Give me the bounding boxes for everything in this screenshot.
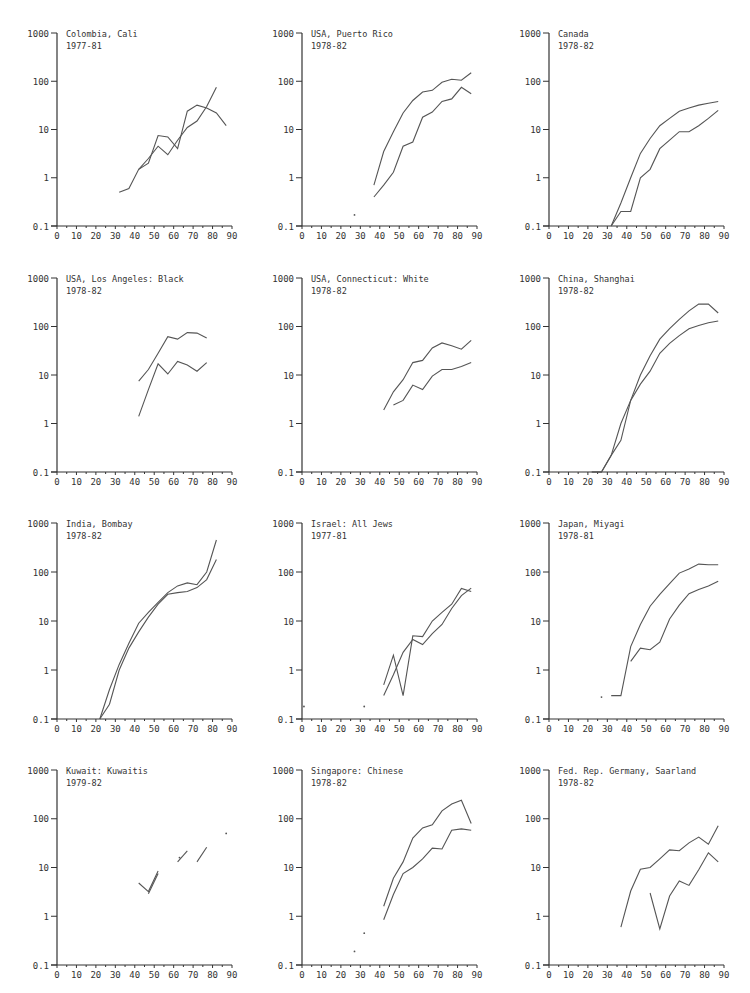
y-tick-label: 0.1 xyxy=(33,468,49,478)
x-tick-label: 90 xyxy=(227,231,238,241)
series-line-upper xyxy=(384,340,472,410)
x-tick-label: 80 xyxy=(207,970,218,980)
y-tick-label: 10 xyxy=(530,371,541,381)
chart-panel-8: 10001001010.10102030405060708090Japan, M… xyxy=(519,519,729,735)
y-tick-label: 100 xyxy=(33,814,49,824)
y-tick-label: 0.1 xyxy=(33,961,49,971)
x-tick-label: 10 xyxy=(316,477,327,487)
x-tick-label: 90 xyxy=(472,724,483,734)
chart-panel-3: 10001001010.10102030405060708090USA, Los… xyxy=(27,274,237,488)
chart-subtitle: 1977-81 xyxy=(66,41,102,51)
x-tick-label: 60 xyxy=(660,724,671,734)
y-tick-label: 0.1 xyxy=(525,715,541,725)
x-tick-label: 90 xyxy=(227,970,238,980)
y-tick-label: 0.1 xyxy=(33,715,49,725)
x-tick-label: 30 xyxy=(602,970,613,980)
chart-subtitle: 1977-81 xyxy=(311,531,347,541)
chart-subtitle: 1978-82 xyxy=(311,41,347,51)
x-tick-label: 90 xyxy=(719,477,730,487)
x-tick-label: 30 xyxy=(355,477,366,487)
x-tick-label: 30 xyxy=(602,231,613,241)
series-line-lower xyxy=(384,588,472,696)
x-tick-label: 90 xyxy=(227,724,238,734)
x-tick-label: 0 xyxy=(54,724,59,734)
chart-panel-10: 10001001010.10102030405060708090Singapor… xyxy=(272,766,482,981)
series-line-upper xyxy=(384,589,472,696)
x-tick-label: 10 xyxy=(71,970,82,980)
x-tick-label: 70 xyxy=(188,231,199,241)
x-tick-label: 30 xyxy=(110,477,121,487)
y-tick-label: 1000 xyxy=(272,274,294,284)
x-tick-label: 0 xyxy=(546,231,551,241)
y-tick-label: 100 xyxy=(525,568,541,578)
x-tick-label: 0 xyxy=(546,970,551,980)
chart-title: Singapore: Chinese xyxy=(311,766,403,776)
chart-title: USA, Los Angeles: Black xyxy=(66,274,184,284)
x-tick-label: 50 xyxy=(394,724,405,734)
x-tick-label: 10 xyxy=(563,970,574,980)
x-tick-label: 10 xyxy=(71,231,82,241)
x-tick-label: 50 xyxy=(149,724,160,734)
y-tick-label: 1 xyxy=(289,666,294,676)
chart-subtitle: 1978-82 xyxy=(66,286,102,296)
y-tick-label: 100 xyxy=(525,814,541,824)
x-tick-label: 40 xyxy=(129,970,140,980)
chart-title: USA, Puerto Rico xyxy=(311,29,393,39)
chart-title: Israel: All Jews xyxy=(311,519,393,529)
x-tick-label: 80 xyxy=(452,231,463,241)
x-tick-label: 80 xyxy=(452,477,463,487)
x-tick-label: 90 xyxy=(472,970,483,980)
x-tick-label: 20 xyxy=(335,231,346,241)
x-tick-label: 20 xyxy=(335,477,346,487)
x-tick-label: 20 xyxy=(90,724,101,734)
y-tick-label: 10 xyxy=(38,125,49,135)
y-tick-label: 10 xyxy=(38,863,49,873)
chart-title: Japan, Miyagi xyxy=(558,519,625,529)
y-tick-label: 1000 xyxy=(272,29,294,39)
x-tick-label: 10 xyxy=(71,477,82,487)
y-tick-label: 10 xyxy=(283,863,294,873)
y-tick-label: 1000 xyxy=(519,766,541,776)
x-tick-label: 90 xyxy=(719,724,730,734)
chart-panel-11: 10001001010.10102030405060708090Fed. Rep… xyxy=(519,766,729,981)
x-tick-label: 40 xyxy=(374,970,385,980)
series-line-lower xyxy=(100,560,217,720)
x-tick-label: 40 xyxy=(374,724,385,734)
series-line-upper xyxy=(611,102,718,227)
y-tick-label: 0.1 xyxy=(278,715,294,725)
y-tick-label: 1 xyxy=(536,419,541,429)
x-tick-label: 60 xyxy=(168,231,179,241)
y-tick-label: 100 xyxy=(278,322,294,332)
data-point xyxy=(179,857,181,859)
series-line-upper xyxy=(621,826,718,927)
x-tick-label: 80 xyxy=(207,724,218,734)
y-tick-label: 0.1 xyxy=(278,961,294,971)
chart-subtitle: 1978-82 xyxy=(311,286,347,296)
x-tick-label: 20 xyxy=(335,970,346,980)
y-tick-label: 1 xyxy=(289,173,294,183)
x-tick-label: 60 xyxy=(168,970,179,980)
x-tick-label: 30 xyxy=(110,970,121,980)
x-tick-label: 50 xyxy=(149,477,160,487)
x-tick-label: 0 xyxy=(54,477,59,487)
x-tick-label: 40 xyxy=(129,724,140,734)
x-tick-label: 40 xyxy=(129,231,140,241)
x-tick-label: 10 xyxy=(563,231,574,241)
x-tick-label: 30 xyxy=(602,724,613,734)
x-tick-label: 60 xyxy=(168,477,179,487)
y-tick-label: 10 xyxy=(283,125,294,135)
x-tick-label: 30 xyxy=(110,231,121,241)
y-tick-label: 1000 xyxy=(27,29,49,39)
chart-subtitle: 1978-82 xyxy=(558,41,594,51)
y-tick-label: 100 xyxy=(33,77,49,87)
y-tick-label: 1000 xyxy=(27,766,49,776)
x-tick-label: 60 xyxy=(413,724,424,734)
chart-subtitle: 1978-82 xyxy=(558,778,594,788)
chart-title: Kuwait: Kuwaitis xyxy=(66,766,148,776)
y-tick-label: 10 xyxy=(530,125,541,135)
x-tick-label: 30 xyxy=(110,724,121,734)
x-tick-label: 20 xyxy=(90,970,101,980)
x-tick-label: 60 xyxy=(660,477,671,487)
chart-title: Colombia, Cali xyxy=(66,29,138,39)
x-tick-label: 50 xyxy=(641,970,652,980)
